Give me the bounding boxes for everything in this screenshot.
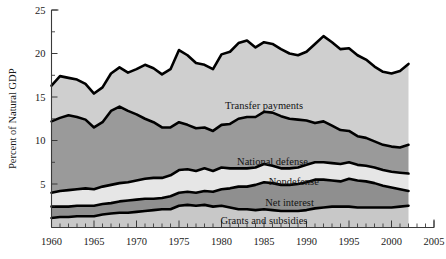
x-tick-label: 1990 [296,236,317,247]
y-tick-label: 10 [35,135,46,146]
series-label-grants-and-subsidies: Grants and subsidies [221,215,308,226]
chart-canvas: 5101520251960196519701975198019851990199… [0,0,446,259]
x-tick-label: 1965 [84,236,105,247]
axis-title-group: Percent of Natural GDP [7,68,18,169]
areas-group [52,36,409,227]
y-tick-label: 20 [35,48,46,59]
x-tick-label: 1975 [169,236,190,247]
series-label-net-interest: Net interest [265,197,314,208]
x-tick-label: 1980 [211,236,232,247]
y-axis-title: Percent of Natural GDP [7,68,18,169]
x-tick-label: 1995 [339,236,360,247]
series-label-nondefense: Nondefense [269,176,319,187]
x-tick-label: 1985 [254,236,275,247]
x-tick-label: 2000 [381,236,402,247]
stacked-area-chart: 5101520251960196519701975198019851990199… [0,0,446,259]
y-tick-label: 15 [35,92,46,103]
y-tick-label: 25 [35,5,46,16]
series-label-transfer-payments: Transfer payments [225,100,303,111]
x-tick-label: 2005 [424,236,445,247]
x-tick-label: 1960 [41,236,62,247]
x-tick-label: 1970 [126,236,147,247]
y-tick-label: 5 [40,179,45,190]
series-label-national-defense: National defense [237,156,308,167]
